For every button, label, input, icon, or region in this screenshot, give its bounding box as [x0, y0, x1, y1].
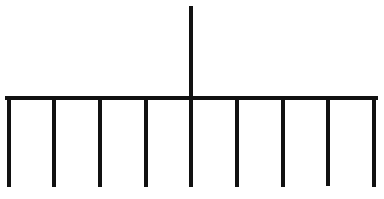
comb-tree-diagram — [0, 0, 384, 199]
diagram-canvas — [0, 0, 384, 199]
legs — [9, 98, 374, 185]
